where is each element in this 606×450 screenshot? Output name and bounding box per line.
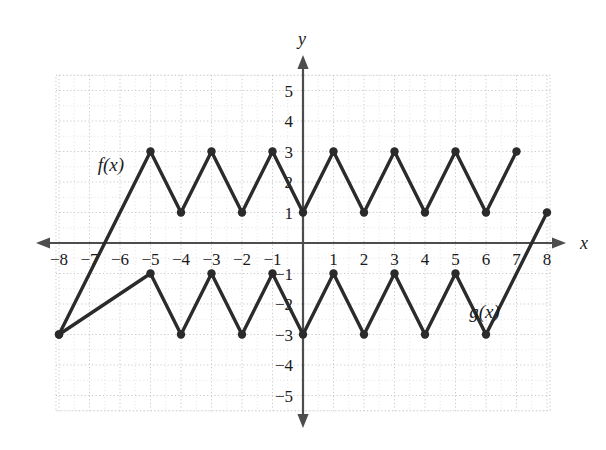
x-axis-tick-labels: −8−7−6−5−4−3−2−112345678 [50, 250, 551, 269]
x-tick-label: −4 [172, 250, 191, 269]
data-point-marker [421, 330, 429, 338]
graph-figure: −8−7−6−5−4−3−2−112345678 54321−1−2−3−4−5… [0, 0, 606, 450]
data-point-marker [390, 147, 398, 155]
x-tick-label: 8 [543, 250, 552, 269]
data-point-marker [390, 269, 398, 277]
data-point-marker [146, 147, 154, 155]
x-tick-label: −8 [50, 250, 68, 269]
x-tick-label: 5 [451, 250, 460, 269]
data-point-marker [512, 147, 520, 155]
coordinate-plane: −8−7−6−5−4−3−2−112345678 54321−1−2−3−4−5… [0, 0, 606, 450]
data-point-marker [451, 269, 459, 277]
data-point-marker [299, 330, 307, 338]
curve-label-fx: f(x) [98, 154, 124, 176]
data-point-marker [238, 208, 246, 216]
y-axis-name: y [296, 29, 306, 49]
x-tick-label: 6 [482, 250, 491, 269]
data-point-marker [238, 330, 246, 338]
data-point-marker [268, 269, 276, 277]
y-tick-label: −5 [275, 387, 293, 406]
x-tick-label: 1 [329, 250, 338, 269]
x-tick-label: −3 [202, 250, 220, 269]
data-point-marker [146, 269, 154, 277]
data-point-marker [360, 208, 368, 216]
y-tick-label: 4 [285, 112, 294, 131]
x-tick-label: −6 [111, 250, 129, 269]
data-point-marker [421, 208, 429, 216]
y-tick-label: 5 [285, 82, 294, 101]
data-point-marker [299, 208, 307, 216]
x-tick-label: −2 [233, 250, 251, 269]
data-point-marker [451, 147, 459, 155]
data-point-marker [207, 147, 215, 155]
x-tick-label: 3 [390, 250, 399, 269]
data-point-marker [482, 330, 490, 338]
x-axis-name: x [579, 233, 588, 253]
y-tick-label: −4 [275, 356, 294, 375]
data-point-marker [177, 208, 185, 216]
data-point-marker [177, 330, 185, 338]
data-point-marker [543, 208, 551, 216]
data-point-marker [329, 269, 337, 277]
x-tick-label: 2 [360, 250, 369, 269]
curve-label-gx: g(x) [469, 301, 500, 323]
data-point-marker [55, 330, 63, 338]
data-point-marker [207, 269, 215, 277]
data-point-marker [482, 208, 490, 216]
curve-labels: f(x)g(x) [98, 154, 500, 322]
data-point-marker [329, 147, 337, 155]
x-tick-label: −5 [141, 250, 159, 269]
y-tick-label: −3 [275, 326, 293, 345]
x-tick-label: 4 [421, 250, 430, 269]
y-tick-label: 1 [285, 204, 294, 223]
data-point-marker [360, 330, 368, 338]
y-tick-label: 3 [285, 143, 294, 162]
data-point-marker [268, 147, 276, 155]
